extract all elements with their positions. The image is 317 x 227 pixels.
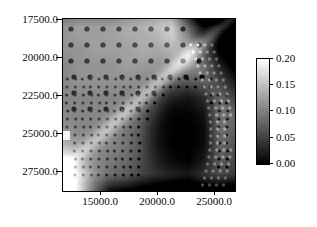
heatmap-svg	[63, 19, 235, 191]
colorbar-tick-mark-1	[269, 84, 273, 85]
colorbar	[256, 58, 270, 165]
x-tick-label-2: 25000.0	[186, 196, 242, 207]
colorbar-tick-label-0: 0.20	[276, 53, 316, 64]
heatmap-plot-area	[62, 18, 236, 192]
figure-canvas: 17500.0 20000.0 22500.0 25000.0 27500.0 …	[0, 0, 317, 227]
colorbar-tick-mark-3	[269, 137, 273, 138]
colorbar-tick-label-1: 0.15	[276, 79, 316, 90]
y-tick-label-3: 25000.0	[4, 128, 58, 139]
x-tick-label-0: 15000.0	[72, 196, 128, 207]
y-tick-label-2: 22500.0	[4, 90, 58, 101]
colorbar-tick-label-4: 0.00	[276, 158, 316, 169]
colorbar-tick-mark-2	[269, 110, 273, 111]
colorbar-tick-mark-0	[269, 58, 273, 59]
colorbar-tick-mark-4	[269, 163, 273, 164]
colorbar-tick-label-2: 0.10	[276, 105, 316, 116]
colorbar-gradient	[257, 59, 269, 164]
colorbar-tick-label-3: 0.05	[276, 132, 316, 143]
x-tick-label-1: 20000.0	[129, 196, 185, 207]
y-tick-label-4: 27500.0	[4, 166, 58, 177]
y-tick-label-1: 20000.0	[4, 52, 58, 63]
y-tick-label-0: 17500.0	[4, 14, 58, 25]
